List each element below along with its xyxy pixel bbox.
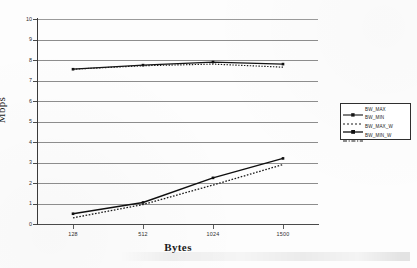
data-point-marker xyxy=(212,61,215,64)
legend-swatch-solid-marker-icon xyxy=(342,105,364,113)
legend-entry-bw-max: BW_MAX xyxy=(341,105,410,114)
series-line-bw-min-w xyxy=(73,165,283,218)
y-tick-label-10: 10 xyxy=(10,16,32,22)
legend-label-bw-min-w: BW_MIN_W xyxy=(365,133,391,138)
x-tick-mark xyxy=(283,225,284,229)
series-bw-max-w xyxy=(72,157,285,215)
legend-swatch-dash-dot-icon xyxy=(342,131,364,139)
series-line-bw-min xyxy=(73,64,283,69)
x-tick-mark xyxy=(73,225,74,229)
legend-entry-bw-min-w: BW_MIN_W xyxy=(341,131,410,140)
legend-entry-bw-min: BW_MIN xyxy=(341,114,410,123)
series-line-bw-max-w xyxy=(73,158,283,213)
x-tick-mark xyxy=(213,225,214,229)
x-tick-label-128: 128 xyxy=(53,231,93,237)
series-markers-bw-max xyxy=(72,61,285,71)
y-tick-label-7: 7 xyxy=(10,77,32,83)
chart-page: Mbps 10 9 8 7 6 5 4 3 2 1 0 128 512 1024… xyxy=(0,0,417,268)
data-point-marker xyxy=(72,212,75,215)
data-point-marker xyxy=(282,157,285,160)
x-axis-title: Bytes xyxy=(0,241,356,253)
series-bw-max xyxy=(72,61,285,71)
legend-entry-bw-max-w: BW_MAX_W xyxy=(341,122,410,131)
y-tick-label-8: 8 xyxy=(10,57,32,63)
y-tick-label-9: 9 xyxy=(10,36,32,42)
x-tick-label-512: 512 xyxy=(123,231,163,237)
x-tick-label-1024: 1024 xyxy=(193,231,233,237)
series-bw-min-w xyxy=(73,165,283,218)
legend-label-bw-max: BW_MAX xyxy=(365,107,386,112)
y-tick-label-2: 2 xyxy=(10,180,32,186)
series-layer xyxy=(38,19,318,225)
data-point-marker xyxy=(142,201,145,204)
legend: BW_MAX BW_MIN BW_MAX_W xyxy=(340,103,411,140)
scan-artifact-smudge xyxy=(120,252,410,261)
legend-label-bw-max-w: BW_MAX_W xyxy=(365,124,393,129)
y-tick-label-4: 4 xyxy=(10,139,32,145)
series-line-bw-max xyxy=(73,62,283,69)
y-tick-label-3: 3 xyxy=(10,159,32,165)
data-point-marker xyxy=(212,177,215,180)
legend-swatch-solid-marker-w-icon xyxy=(342,122,364,130)
y-tick-label-6: 6 xyxy=(10,98,32,104)
series-markers-bw-max-w xyxy=(72,157,285,215)
data-point-marker xyxy=(282,63,285,66)
x-tick-mark xyxy=(143,225,144,229)
y-tick-label-0: 0 xyxy=(10,221,32,227)
y-tick-label-5: 5 xyxy=(10,118,32,124)
legend-label-bw-min: BW_MIN xyxy=(365,115,384,120)
y-axis-title: Mbps xyxy=(0,97,7,123)
legend-swatch-dotted-icon xyxy=(342,114,364,122)
y-tick-label-1: 1 xyxy=(10,200,32,206)
series-bw-min xyxy=(73,64,283,69)
x-tick-label-1500: 1500 xyxy=(263,231,303,237)
